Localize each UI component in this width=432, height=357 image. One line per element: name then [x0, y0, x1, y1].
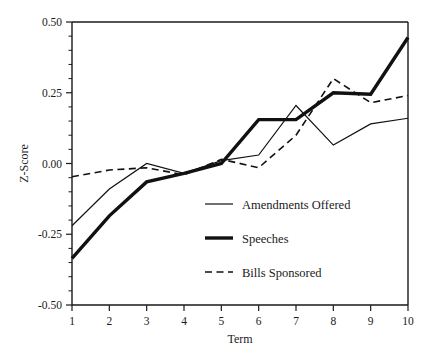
x-tick-label: 6: [256, 315, 262, 327]
x-tick-label: 7: [293, 315, 299, 327]
x-axis-title: Term: [227, 332, 253, 346]
y-tick-label: 0.50: [42, 16, 62, 28]
series-line-amendments-offered: [72, 105, 408, 225]
x-tick-label: 4: [181, 315, 187, 327]
legend-label: Speeches: [242, 232, 289, 246]
series-line-speeches: [72, 38, 408, 259]
axis-ticks: [66, 22, 408, 311]
legend-label: Bills Sponsored: [242, 266, 322, 280]
x-tick-label: 1: [69, 315, 75, 327]
x-tick-label: 10: [402, 315, 414, 327]
x-tick-label: 2: [106, 315, 112, 327]
legend-label: Amendments Offered: [242, 198, 351, 212]
chart-legend: Amendments OfferedSpeechesBills Sponsore…: [205, 198, 351, 280]
y-tick-label: 0.00: [42, 158, 62, 170]
y-axis-title: Z-Score: [17, 144, 31, 183]
x-tick-label: 5: [218, 315, 224, 327]
y-tick-label: 0.25: [42, 87, 62, 99]
x-tick-label: 9: [368, 315, 374, 327]
x-axis-tick-labels: 12345678910: [69, 315, 414, 327]
chart-container: 0.500.250.00-0.25-0.50 12345678910 Z-Sco…: [0, 0, 432, 357]
y-axis-tick-labels: 0.500.250.00-0.25-0.50: [38, 16, 62, 311]
line-chart: 0.500.250.00-0.25-0.50 12345678910 Z-Sco…: [0, 0, 432, 357]
y-tick-label: -0.25: [38, 228, 62, 240]
data-series-group: [72, 38, 408, 259]
x-tick-label: 3: [144, 315, 150, 327]
x-tick-label: 8: [330, 315, 336, 327]
y-tick-label: -0.50: [38, 299, 62, 311]
